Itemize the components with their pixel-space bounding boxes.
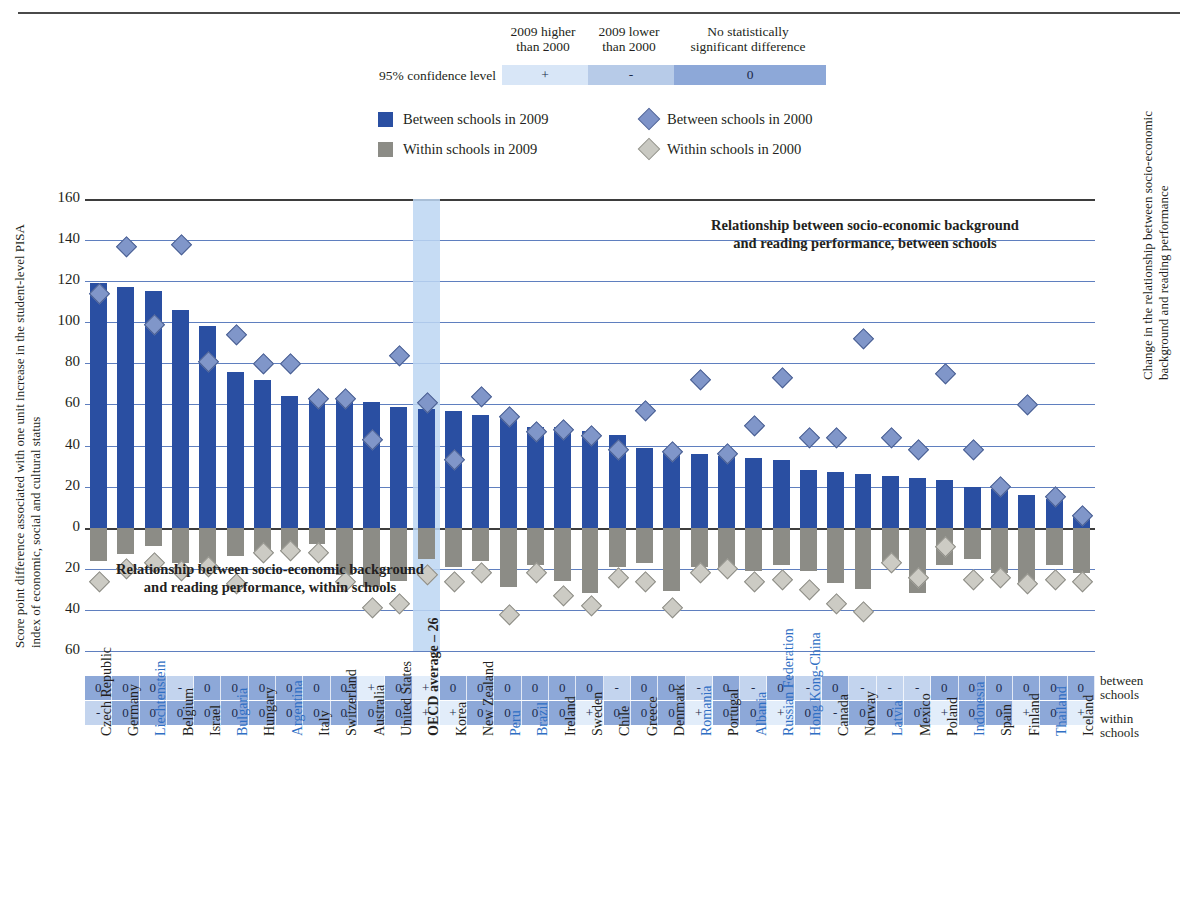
legend-within-2000: Within schools in 2000 [638, 141, 898, 158]
y-tick-label: 0 [46, 518, 80, 535]
country-label-indonesia[interactable]: Indonesia [959, 736, 986, 901]
country-label-australia[interactable]: Australia [358, 736, 385, 901]
bar-within-2009 [855, 528, 872, 590]
country-label-ireland[interactable]: Ireland [549, 736, 576, 901]
bar-between-2009 [90, 283, 107, 527]
conf-header-nodiff: No statistically significant difference [672, 24, 824, 54]
blue-diamond-icon [638, 108, 661, 131]
country-label-hungary[interactable]: Hungary [249, 736, 276, 901]
country-label-text: Portugal [726, 689, 742, 736]
bar-within-2009 [663, 528, 680, 592]
country-label-denmark[interactable]: Denmark [658, 736, 685, 901]
country-label-text: Denmark [672, 684, 688, 736]
bar-within-2009 [991, 528, 1008, 573]
y-tick-label: 20 [46, 477, 80, 494]
country-label-switzerland[interactable]: Switzerland [331, 736, 358, 901]
country-label-latvia[interactable]: Latvia [877, 736, 904, 901]
y-tick-label: 60 [46, 641, 80, 658]
country-label-text: Indonesia [972, 682, 988, 736]
right-axis-title: Change in the relationship between socio… [1140, 80, 1174, 380]
country-label-russian-federation[interactable]: Russian Federation [767, 736, 794, 901]
y-tick-label: 80 [46, 353, 80, 370]
bar-within-2009 [117, 528, 134, 555]
country-label-greece[interactable]: Greece [631, 736, 658, 901]
country-label-chile[interactable]: Chile [604, 736, 631, 901]
country-label-united-states[interactable]: United States [385, 736, 412, 901]
annotation-between-schools: Relationship between socio-economic back… [700, 216, 1030, 252]
gridline [85, 651, 1095, 652]
conf-swatch-minus: - [588, 65, 674, 85]
bar-between-2009 [909, 478, 926, 527]
country-label-text: Bulgaria [235, 688, 251, 736]
country-label-text: Korea [454, 702, 470, 736]
country-label-albania[interactable]: Albania [740, 736, 767, 901]
country-label-italy[interactable]: Italy [303, 736, 330, 901]
sig-label-within: withinschools [1100, 712, 1143, 740]
country-label-oecd-average-26[interactable]: OECD average – 26 [413, 736, 440, 901]
country-label-text: Albania [754, 692, 770, 736]
country-label-korea[interactable]: Korea [440, 736, 467, 901]
confidence-legend: 2009 higher than 2000 2009 lower than 20… [330, 24, 890, 96]
country-label-text: Thailand [1054, 686, 1070, 736]
country-label-mexico[interactable]: Mexico [904, 736, 931, 901]
country-label-text: OECD average – 26 [426, 617, 442, 736]
country-label-liechtenstein[interactable]: Liechtenstein [140, 736, 167, 901]
bar-within-2009 [500, 528, 517, 588]
country-label-romania[interactable]: Romania [686, 736, 713, 901]
bar-between-2009 [472, 415, 489, 528]
country-label-canada[interactable]: Canada [822, 736, 849, 901]
blue-square-icon [378, 112, 393, 127]
country-label-peru[interactable]: Peru [494, 736, 521, 901]
country-label-hong-kong-china[interactable]: Hong Kong-China [795, 736, 822, 901]
bar-between-2009 [663, 452, 680, 528]
legend-label: Within schools in 2000 [667, 141, 801, 158]
bar-within-2009 [636, 528, 653, 563]
bar-within-2009 [800, 528, 817, 571]
bar-between-2009 [1018, 495, 1035, 528]
country-label-germany[interactable]: Germany [112, 736, 139, 901]
country-label-czech-republic[interactable]: Czech Republic [85, 736, 112, 901]
country-label-thailand[interactable]: Thailand [1040, 736, 1067, 901]
significance-cell: - [877, 676, 904, 700]
country-label-israel[interactable]: Israel [194, 736, 221, 901]
country-label-norway[interactable]: Norway [849, 736, 876, 901]
country-label-argentina[interactable]: Argentina [276, 736, 303, 901]
bar-between-2009 [691, 454, 708, 528]
country-label-poland[interactable]: Poland [931, 736, 958, 901]
bar-within-2009 [1046, 528, 1063, 565]
significance-cell: 0 [303, 676, 330, 700]
country-label-text: Peru [508, 710, 524, 736]
significance-cell: 0 [194, 676, 221, 700]
country-label-text: Australia [372, 685, 388, 736]
country-label-brazil[interactable]: Brazil [522, 736, 549, 901]
bar-within-2009 [472, 528, 489, 561]
significance-cell: 0 [494, 676, 521, 700]
country-label-belgium[interactable]: Belgium [167, 736, 194, 901]
conf-header-lower: 2009 lower than 2000 [586, 24, 672, 54]
y-axis-ticks: 160140120100806040200204060 [38, 199, 80, 651]
country-label-text: Italy [317, 710, 333, 736]
bar-between-2009 [882, 476, 899, 527]
confidence-level-label: 95% confidence level [330, 68, 496, 84]
country-label-spain[interactable]: Spain [986, 736, 1013, 901]
country-label-text: Greece [645, 696, 661, 736]
country-label-new-zealand[interactable]: New Zealand [467, 736, 494, 901]
country-label-portugal[interactable]: Portugal [713, 736, 740, 901]
country-axis-labels: Czech RepublicGermanyLiechtensteinBelgiu… [85, 736, 1095, 901]
bar-between-2009 [309, 398, 326, 527]
country-label-text: Czech Republic [99, 647, 115, 736]
country-label-finland[interactable]: Finland [1013, 736, 1040, 901]
country-label-text: Norway [863, 691, 879, 736]
country-label-sweden[interactable]: Sweden [576, 736, 603, 901]
sig-label-between: betweenschools [1100, 674, 1143, 702]
significance-row-labels: betweenschools withinschools [1100, 674, 1143, 750]
country-label-text: New Zealand [481, 661, 497, 736]
country-label-iceland[interactable]: Iceland [1068, 736, 1095, 901]
country-label-text: Canada [836, 694, 852, 736]
grey-square-icon [378, 142, 393, 157]
country-label-text: Iceland [1081, 695, 1097, 736]
bar-within-2009 [554, 528, 571, 581]
country-label-bulgaria[interactable]: Bulgaria [221, 736, 248, 901]
country-label-text: Russian Federation [781, 628, 797, 736]
y-tick-label: 40 [46, 600, 80, 617]
